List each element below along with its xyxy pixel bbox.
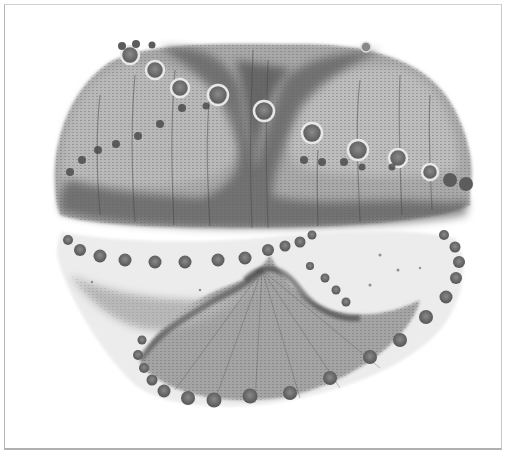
lower-valve — [57, 230, 465, 408]
upper-valve — [54, 40, 473, 228]
specimen-image — [0, 0, 508, 455]
